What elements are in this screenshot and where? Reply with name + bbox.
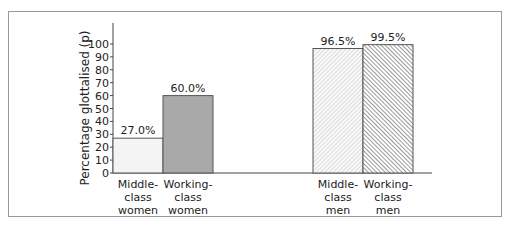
- bar-value-label: 27.0%: [121, 124, 156, 137]
- bar-value-label: 60.0%: [171, 82, 206, 95]
- bar: [313, 49, 363, 173]
- category-label: class: [324, 191, 352, 204]
- category-label: class: [124, 191, 152, 204]
- category-label: Working-: [164, 178, 213, 191]
- category-label: class: [174, 191, 202, 204]
- bar-value-label: 96.5%: [321, 35, 356, 48]
- bar-value-label: 99.5%: [371, 31, 406, 44]
- category-label: women: [168, 204, 208, 217]
- y-tick-label: 40: [95, 115, 109, 128]
- category-label: men: [326, 204, 350, 217]
- x-axis-labels: Middle-classwomenWorking-classwomenMiddl…: [118, 178, 413, 217]
- y-tick-label: 70: [95, 77, 109, 90]
- category-label: women: [118, 204, 158, 217]
- y-tick-label: 20: [95, 141, 109, 154]
- y-tick-label: 90: [95, 51, 109, 64]
- category-label: men: [376, 204, 400, 217]
- y-tick-label: 10: [95, 154, 109, 167]
- category-label: Working-: [364, 178, 413, 191]
- category-label: class: [374, 191, 402, 204]
- y-axis-title: Percentage glottalised (p): [78, 30, 92, 185]
- y-tick-label: 80: [95, 64, 109, 77]
- category-label: Middle-: [118, 178, 158, 191]
- y-tick-label: 60: [95, 90, 109, 103]
- category-label: Middle-: [318, 178, 358, 191]
- bar: [163, 96, 213, 173]
- y-tick-label: 30: [95, 128, 109, 141]
- bar: [113, 138, 163, 173]
- bar: [363, 45, 413, 173]
- y-tick-label: 50: [95, 103, 109, 116]
- bar-chart: 0102030405060708090100 27.0%60.0%96.5%99…: [0, 0, 511, 229]
- y-tick-label: 0: [102, 167, 109, 180]
- bars: 27.0%60.0%96.5%99.5%: [113, 31, 413, 173]
